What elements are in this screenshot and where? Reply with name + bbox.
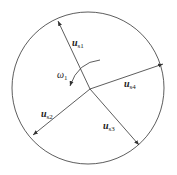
label-us4: us4 — [124, 78, 136, 91]
label-us3: us3 — [103, 120, 115, 133]
boundary-circle — [12, 12, 164, 164]
rotation-arrow-icon — [70, 60, 100, 86]
vector-diagram: us1 us4 us3 us2 ω1 — [0, 0, 177, 175]
label-omega1: ω1 — [57, 69, 68, 82]
label-us1: us1 — [72, 37, 84, 50]
label-us2: us2 — [41, 108, 53, 121]
vector-us3 — [90, 89, 139, 145]
